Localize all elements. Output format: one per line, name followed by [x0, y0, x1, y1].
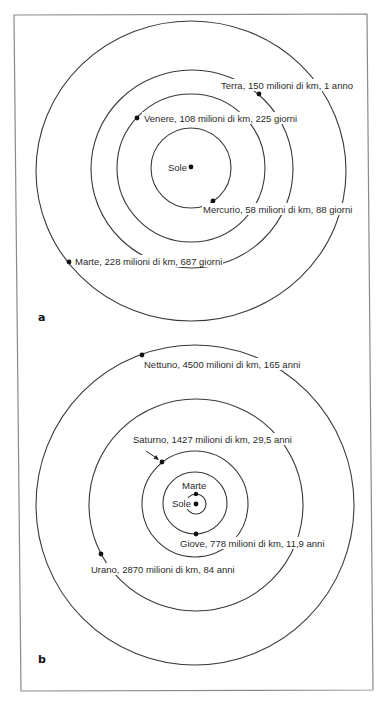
planet-dot-terra	[257, 92, 262, 97]
planet-dot-giove	[194, 532, 199, 537]
orbit-marte	[36, 21, 346, 321]
panel-letter-a: a	[38, 311, 45, 324]
sun-label-b: Sole	[172, 498, 191, 509]
panel-a-inner-planets: Sole Mercurio, 58 milioni di km, 88 gior…	[36, 21, 366, 324]
planet-label-giove: Giove, 778 milioni di km, 11,9 anni	[180, 538, 325, 549]
sun-label-a: Sole	[168, 162, 187, 173]
planet-label-nettuno: Nettuno, 4500 milioni di km, 165 anni	[144, 359, 300, 370]
arrowhead-saturno	[154, 455, 160, 460]
planet-dot-saturno	[160, 460, 165, 465]
planet-label-urano: Urano, 2870 milioni di km, 84 anni	[91, 564, 235, 575]
panel-letter-b: b	[38, 653, 46, 666]
planet-label-terra: Terra, 150 milioni di km, 1 anno	[221, 80, 353, 91]
panel-b-outer-planets: Sole Marte Giove, 778 milioni di km, 11,…	[36, 345, 354, 666]
planet-label-marte-b: Marte	[182, 480, 206, 491]
planet-dot-marte-b	[194, 492, 198, 496]
planet-label-mercurio: Mercurio, 58 milioni di km, 88 giorni	[203, 204, 352, 215]
planet-label-saturno: Saturno, 1427 milioni di km, 29,5 anni	[133, 434, 292, 445]
planet-label-venere: Venere, 108 milioni di km, 225 giorni	[144, 113, 297, 124]
planet-dot-venere	[135, 116, 140, 121]
sun-dot-b	[194, 502, 199, 507]
planet-dot-urano	[99, 552, 104, 557]
sun-dot-a	[189, 165, 194, 170]
solar-system-orbits-figure: Sole Mercurio, 58 milioni di km, 88 gior…	[0, 0, 387, 705]
planet-dot-nettuno	[140, 353, 145, 358]
planet-label-marte: Marte, 228 milioni di km, 687 giorni	[75, 256, 222, 267]
planet-dot-marte	[67, 260, 72, 265]
